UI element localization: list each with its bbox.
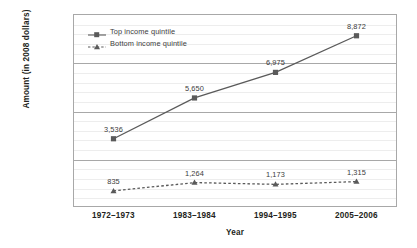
point-value-label: 3,536 <box>84 125 144 134</box>
minor-gridline <box>74 198 396 199</box>
minor-gridline <box>74 189 396 190</box>
x-tick-label: 2005–2006 <box>312 211 402 220</box>
y-axis-title: Amount (in 2008 dollars) <box>20 0 34 134</box>
major-gridline <box>74 63 396 64</box>
major-gridline <box>74 112 396 113</box>
minor-gridline <box>74 150 396 151</box>
minor-gridline <box>74 140 396 141</box>
line-chart: Amount (in 2008 dollars) $0$2500$5000$75… <box>0 0 417 248</box>
x-tick-label: 1972–1973 <box>69 211 159 220</box>
x-tick-label: 1983–1984 <box>150 211 240 220</box>
legend-label: Top income quintile <box>110 27 175 36</box>
legend-square-marker-icon <box>88 26 106 36</box>
point-value-label: 1,173 <box>246 170 306 179</box>
point-value-label: 8,872 <box>327 22 387 31</box>
minor-gridline <box>74 54 396 55</box>
x-tick-label: 1994–1995 <box>231 211 321 220</box>
minor-gridline <box>74 83 396 84</box>
legend-label: Bottom income quintile <box>110 39 187 48</box>
minor-gridline <box>74 102 396 103</box>
major-gridline <box>74 160 396 161</box>
minor-gridline <box>74 121 396 122</box>
minor-gridline <box>74 92 396 93</box>
legend-item-bottom-quintile: Bottom income quintile <box>88 38 218 48</box>
x-axis-title: Year <box>73 228 397 237</box>
legend-triangle-marker-icon <box>88 38 106 48</box>
legend-item-top-quintile: Top income quintile <box>88 26 218 36</box>
point-value-label: 835 <box>84 177 144 186</box>
minor-gridline <box>74 73 396 74</box>
point-value-label: 6,975 <box>246 58 306 67</box>
legend: Top income quintileBottom income quintil… <box>88 26 218 50</box>
point-value-label: 5,650 <box>165 84 225 93</box>
point-value-label: 1,264 <box>165 169 225 178</box>
point-value-label: 1,315 <box>327 168 387 177</box>
